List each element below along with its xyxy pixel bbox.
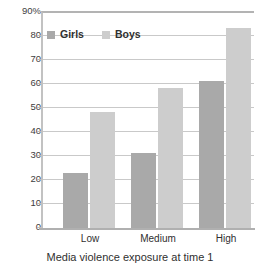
bar-group-high xyxy=(199,11,253,228)
y-axis: 90% 80 70 60 50 40 30 20 10 0 xyxy=(0,0,41,240)
legend-label-boys: Boys xyxy=(115,29,141,40)
legend-swatch-girls-icon xyxy=(47,31,55,39)
legend-label-girls: Girls xyxy=(60,29,84,40)
legend-entry-boys: Boys xyxy=(102,29,141,40)
y-tick-label-60: 60 xyxy=(5,78,41,88)
y-tick-label-20: 20 xyxy=(5,174,41,184)
y-tick-label-80: 80 xyxy=(5,30,41,40)
bar-high-boys xyxy=(226,28,251,228)
y-tick-label-10: 10 xyxy=(5,198,41,208)
bars-layer xyxy=(41,11,254,228)
legend: Girls Boys xyxy=(47,29,141,40)
y-tick-label-50: 50 xyxy=(5,102,41,112)
legend-swatch-boys-icon xyxy=(102,31,110,39)
y-tick-label-0: 0 xyxy=(5,222,41,232)
y-tick-label-40: 40 xyxy=(5,126,41,136)
bar-group-medium xyxy=(131,11,185,228)
bar-group-low xyxy=(63,11,117,228)
bar-medium-girls xyxy=(131,153,156,228)
x-tick-label-high: High xyxy=(216,233,237,245)
legend-entry-girls: Girls xyxy=(47,29,84,40)
y-tick-label-90: 90% xyxy=(5,6,41,16)
bar-low-boys xyxy=(90,112,115,228)
x-axis-baseline xyxy=(39,228,255,230)
bar-medium-boys xyxy=(158,88,183,228)
bar-chart: 90% 80 70 60 50 40 30 20 10 0 xyxy=(0,0,260,271)
x-axis-title: Media violence exposure at time 1 xyxy=(0,251,260,264)
x-tick-label-medium: Medium xyxy=(140,233,176,245)
bar-low-girls xyxy=(63,173,88,229)
y-tick-label-30: 30 xyxy=(5,150,41,160)
bar-high-girls xyxy=(199,81,224,228)
y-tick-label-70: 70 xyxy=(5,54,41,64)
x-tick-label-low: Low xyxy=(81,233,99,245)
